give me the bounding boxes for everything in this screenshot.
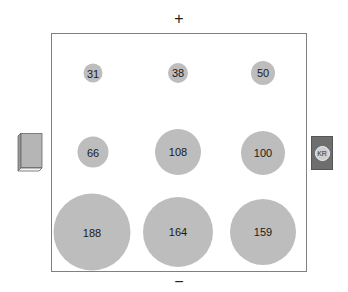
book-icon	[17, 133, 44, 173]
bubble-r1-c2: 38	[168, 63, 188, 83]
bubble-r1-c3: 50	[251, 61, 275, 85]
bubble-value: 38	[172, 67, 184, 79]
bubble-value: 100	[254, 147, 272, 159]
bubble-value: 108	[169, 146, 187, 158]
bubble-r3-c3: 159	[230, 199, 296, 265]
bubble-r1-c1: 31	[84, 64, 103, 83]
bubble-value: 31	[87, 67, 99, 79]
bubble-value: 164	[169, 226, 187, 238]
minus-label: −	[173, 275, 185, 289]
panel-icon: KR	[311, 136, 333, 170]
bubble-value: 66	[87, 146, 99, 158]
bubble-value: 159	[254, 226, 272, 238]
plus-label: +	[173, 11, 185, 27]
bubble-r2-c3: 100	[241, 131, 285, 175]
kr-badge: KR	[315, 146, 330, 161]
bubble-r3-c1: 188	[54, 194, 131, 271]
bubble-value: 50	[257, 67, 269, 79]
bubble-r2-c1: 66	[78, 137, 109, 168]
bubble-r2-c2: 108	[155, 129, 201, 175]
bubble-value: 188	[83, 226, 101, 238]
bubble-r3-c2: 164	[143, 197, 213, 267]
